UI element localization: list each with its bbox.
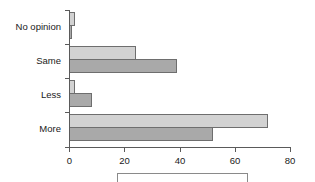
bar-more-series1 — [69, 114, 268, 127]
bar-same-series1 — [69, 46, 135, 59]
bar-chart: No opinion Same Less More 0 20 40 60 80 — [0, 0, 315, 182]
bar-less-series2 — [69, 93, 91, 106]
x-tick-label-80: 80 — [285, 155, 296, 166]
y-label-same: Same — [36, 55, 61, 66]
y-label-less: Less — [41, 89, 61, 100]
x-tick-label-40: 40 — [175, 155, 186, 166]
chart-canvas: No opinion Same Less More 0 20 40 60 80 — [0, 0, 315, 182]
bar-more-series2 — [69, 127, 213, 140]
x-tick-label-20: 20 — [119, 155, 130, 166]
y-label-no-opinion: No opinion — [16, 21, 61, 32]
x-tick-label-0: 0 — [67, 155, 72, 166]
x-tick-label-60: 60 — [230, 155, 241, 166]
y-label-more: More — [39, 123, 61, 134]
bar-same-series2 — [69, 59, 177, 72]
